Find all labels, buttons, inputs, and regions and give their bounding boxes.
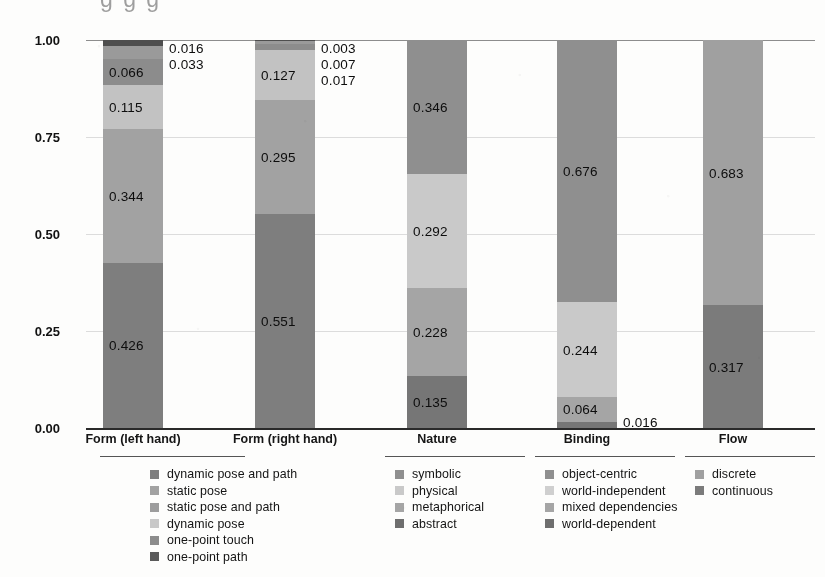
segment-value-label: 0.033 [169,57,204,72]
legend-column: object-centricworld-independentmixed dep… [545,466,677,532]
legend-swatch-icon [545,519,554,528]
segment-value-label: 0.426 [109,338,144,353]
legend-item[interactable]: metaphorical [395,499,484,516]
legend-label: world-dependent [562,517,656,531]
x-tick-label: Binding [564,432,611,446]
legend-item[interactable]: world-independent [545,483,677,500]
segment-value-label: 0.346 [413,100,448,115]
plot-area: 0.0160.0330.0660.1150.3440.426Form (left… [0,0,825,450]
segment-value-label: 0.228 [413,324,448,339]
legend-label: object-centric [562,467,637,481]
legend-label: static pose and path [167,500,280,514]
stacked-bar-chart: 0.000.250.500.751.00 0.0160.0330.0660.11… [0,0,825,450]
legend-label: discrete [712,467,756,481]
legend-column: symbolicphysicalmetaphoricalabstract [395,466,484,532]
legend-group-rule [685,456,815,457]
segment-value-label: 0.115 [109,99,143,114]
legend-item[interactable]: dynamic pose [150,516,297,533]
legend-group-rule [385,456,525,457]
legend-item[interactable]: static pose [150,483,297,500]
segment-value-label: 0.064 [563,402,598,417]
legend-swatch-icon [150,503,159,512]
bar-flow[interactable]: 0.6830.317 [703,40,763,428]
segment-value-label: 0.551 [261,314,296,329]
legend-swatch-icon [395,486,404,495]
segment-value-label: 0.295 [261,149,296,164]
legend-swatch-icon [150,519,159,528]
chart-legend: dynamic pose and pathstatic posestatic p… [0,452,825,577]
legend-item[interactable]: abstract [395,516,484,533]
legend-group-rule [535,456,675,457]
x-tick-label: Nature [417,432,457,446]
legend-swatch-icon [545,486,554,495]
legend-item[interactable]: one-point path [150,549,297,566]
segment-world-dependent[interactable] [557,422,617,428]
legend-label: physical [412,484,458,498]
legend-label: dynamic pose and path [167,467,297,481]
legend-swatch-icon [395,503,404,512]
legend-label: world-independent [562,484,666,498]
legend-swatch-icon [545,470,554,479]
legend-column: discretecontinuous [695,466,773,499]
legend-swatch-icon [545,503,554,512]
x-tick-label: Form (right hand) [233,432,337,446]
segment-one-point-touch[interactable] [103,46,163,59]
segment-value-label: 0.007 [321,57,356,72]
legend-label: one-point touch [167,533,254,547]
segment-value-label: 0.676 [563,164,598,179]
legend-item[interactable]: continuous [695,483,773,500]
legend-item[interactable]: one-point touch [150,532,297,549]
legend-item[interactable]: physical [395,483,484,500]
legend-item[interactable]: mixed dependencies [545,499,677,516]
legend-swatch-icon [695,486,704,495]
segment-value-label: 0.017 [321,73,356,88]
segment-value-label: 0.135 [413,395,448,410]
legend-swatch-icon [395,519,404,528]
segment-dynamic-pose[interactable] [255,44,315,51]
legend-swatch-icon [150,470,159,479]
legend-item[interactable]: discrete [695,466,773,483]
legend-item[interactable]: symbolic [395,466,484,483]
legend-label: continuous [712,484,773,498]
legend-label: static pose [167,484,227,498]
x-tick-label: Flow [719,432,747,446]
legend-item[interactable]: object-centric [545,466,677,483]
legend-label: one-point path [167,550,248,564]
segment-value-label: 0.683 [709,165,744,180]
legend-label: symbolic [412,467,461,481]
bar-binding[interactable]: 0.6760.2440.0640.016 [557,40,617,428]
segment-value-label: 0.016 [623,415,658,430]
legend-label: abstract [412,517,457,531]
segment-value-label: 0.066 [109,64,144,79]
segment-value-label: 0.244 [563,342,598,357]
segment-value-label: 0.344 [109,188,144,203]
bar-form-right-hand[interactable]: 0.0030.0070.0170.1270.2950.551 [255,40,315,428]
legend-group-rule [100,456,245,457]
legend-swatch-icon [395,470,404,479]
legend-swatch-icon [150,536,159,545]
legend-swatch-icon [695,470,704,479]
legend-label: mixed dependencies [562,500,677,514]
segment-value-label: 0.127 [261,68,296,83]
bar-nature[interactable]: 0.3460.2920.2280.135 [407,40,467,428]
segment-value-label: 0.292 [413,223,448,238]
bar-form-left-hand[interactable]: 0.0160.0330.0660.1150.3440.426 [103,40,163,428]
legend-swatch-icon [150,486,159,495]
legend-column: dynamic pose and pathstatic posestatic p… [150,466,297,565]
legend-label: dynamic pose [167,517,245,531]
legend-label: metaphorical [412,500,484,514]
legend-item[interactable]: dynamic pose and path [150,466,297,483]
segment-value-label: 0.317 [709,359,744,374]
segment-value-label: 0.003 [321,41,356,56]
legend-item[interactable]: static pose and path [150,499,297,516]
legend-item[interactable]: world-dependent [545,516,677,533]
segment-value-label: 0.016 [169,41,204,56]
x-tick-label: Form (left hand) [85,432,180,446]
legend-swatch-icon [150,552,159,561]
